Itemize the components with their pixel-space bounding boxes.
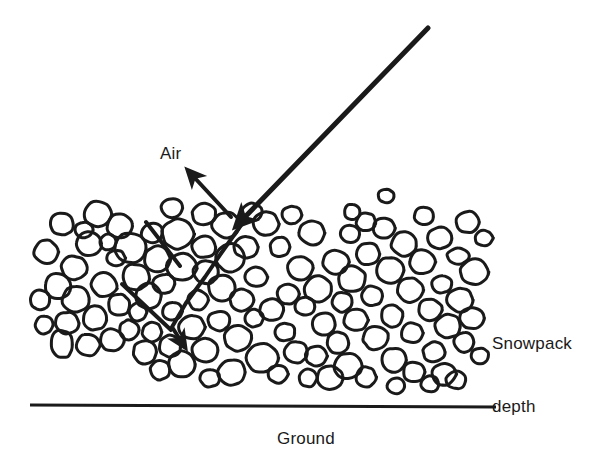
- air-label: Air: [160, 143, 181, 164]
- snow-grain: [109, 294, 130, 315]
- snow-grain: [284, 342, 307, 363]
- snow-grain: [288, 257, 314, 280]
- reflected-ray-to-air: [193, 176, 231, 217]
- snow-grain: [50, 213, 73, 235]
- snow-grain: [304, 276, 331, 302]
- snow-grain: [169, 351, 196, 377]
- snow-grain: [432, 364, 457, 386]
- snow-grain: [363, 327, 388, 350]
- snow-grain: [275, 323, 295, 340]
- ground-line-group: [30, 405, 496, 407]
- snow-grain: [161, 199, 183, 218]
- snow-grain: [423, 342, 445, 362]
- snow-grain: [475, 230, 493, 246]
- snow-grain: [356, 213, 376, 231]
- snow-grains-group: [30, 189, 493, 394]
- snow-grain: [460, 259, 489, 285]
- snow-grain: [192, 203, 215, 225]
- snow-grain: [299, 221, 325, 245]
- snow-grain: [150, 360, 169, 380]
- snow-grain: [51, 330, 72, 357]
- ground-line: [30, 405, 496, 407]
- snow-grain: [356, 367, 377, 387]
- snow-grain: [75, 222, 93, 238]
- snow-grain: [460, 308, 485, 329]
- snow-grain: [356, 243, 379, 264]
- snow-grain: [362, 286, 383, 306]
- snow-grain: [410, 250, 436, 274]
- snow-grain: [282, 206, 302, 223]
- snow-grain: [120, 320, 139, 340]
- snow-grain: [253, 212, 279, 235]
- snow-grain: [402, 323, 424, 343]
- snow-grain: [382, 305, 403, 327]
- snow-grain: [142, 322, 162, 342]
- snowpack-radiative-transfer-diagram: Air Snowpack depth Ground: [0, 0, 594, 465]
- snow-grain: [230, 289, 254, 311]
- snow-grain: [344, 309, 369, 330]
- snow-grain: [397, 278, 423, 302]
- snow-grain: [91, 272, 117, 296]
- snow-grain: [270, 237, 290, 256]
- snowpack-depth-label-line2: depth: [492, 396, 572, 417]
- snow-grain: [377, 258, 404, 284]
- snow-grain: [218, 360, 246, 385]
- snow-grain: [378, 189, 394, 203]
- snow-grain: [305, 346, 327, 366]
- snow-grain: [162, 219, 195, 249]
- snow-grain: [323, 250, 350, 274]
- snow-grain: [312, 313, 335, 335]
- snow-grain: [245, 267, 268, 286]
- snow-grain: [299, 369, 317, 387]
- snow-grain: [387, 378, 405, 394]
- snow-grain: [76, 334, 100, 355]
- snow-grain: [192, 338, 218, 362]
- snow-grain: [224, 325, 251, 351]
- snow-grain: [133, 341, 156, 364]
- snow-grain: [208, 311, 230, 330]
- snow-grain: [454, 333, 474, 353]
- snow-grain: [34, 240, 59, 264]
- snow-grain: [35, 316, 53, 334]
- snow-grain: [30, 290, 49, 310]
- snow-grain: [192, 236, 216, 257]
- snow-grain: [200, 370, 220, 387]
- snow-grain: [456, 211, 479, 232]
- snow-grain: [84, 306, 107, 330]
- snow-grain: [245, 309, 264, 327]
- snow-grain: [136, 283, 162, 309]
- snow-grain: [414, 207, 433, 224]
- snow-grain: [428, 227, 452, 249]
- snow-grain: [268, 365, 288, 383]
- snow-grain: [432, 276, 452, 293]
- snow-grain: [179, 316, 206, 339]
- ground-label: Ground: [277, 428, 335, 449]
- snow-grain: [327, 332, 349, 353]
- snow-grain: [471, 348, 488, 364]
- snow-grain: [62, 286, 89, 312]
- snow-grain: [339, 266, 366, 291]
- snow-grain: [153, 274, 175, 293]
- snowpack-depth-label: Snowpack depth: [492, 291, 572, 459]
- incoming-solar-ray: [243, 28, 428, 219]
- snowpack-depth-label-line1: Snowpack: [492, 333, 572, 354]
